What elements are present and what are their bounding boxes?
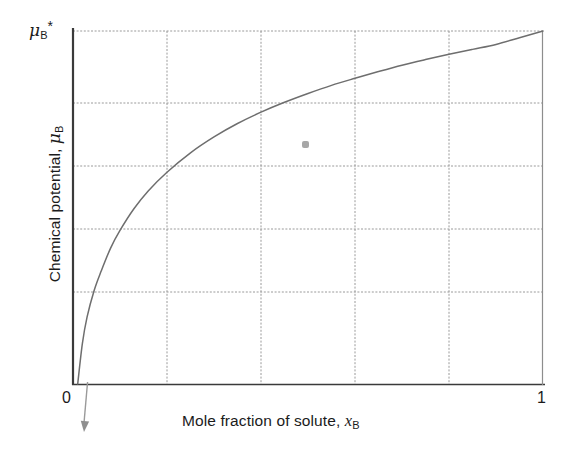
y-axis-max-tick-label: μB*	[29, 18, 53, 41]
x-axis-max-tick-label: 1	[537, 389, 546, 407]
grid-lines	[73, 31, 543, 384]
x-axis-min-tick-label: 0	[62, 389, 71, 407]
y-axis-label-subscript: B	[53, 126, 65, 133]
mu-symbol: μ	[29, 20, 40, 40]
plot-frame	[72, 28, 545, 385]
chart-canvas	[0, 0, 574, 459]
gray-smudge-artifact	[302, 141, 309, 148]
y-axis-label-text: Chemical potential,	[46, 149, 63, 283]
x-axis-label-subscript: B	[352, 419, 359, 431]
y-axis-label-wrapper: Chemical potential, μB	[42, 54, 66, 354]
x-axis-label: Mole fraction of solute, xB	[182, 411, 360, 431]
chemical-potential-curve	[78, 31, 543, 384]
divergence-arrow	[81, 382, 89, 432]
x-axis-label-text: Mole fraction of solute,	[182, 412, 340, 429]
y-axis-label: Chemical potential, μB	[44, 126, 65, 283]
mu-superscript-star: *	[48, 18, 54, 34]
arrow-shaft	[84, 382, 88, 423]
chart-figure: μB* Chemical potential, μB Mole fraction…	[0, 0, 574, 459]
data-curve-group	[78, 31, 543, 384]
y-axis-label-symbol: μ	[44, 133, 64, 144]
arrow-head-icon	[81, 421, 89, 432]
mu-subscript: B	[40, 29, 47, 41]
